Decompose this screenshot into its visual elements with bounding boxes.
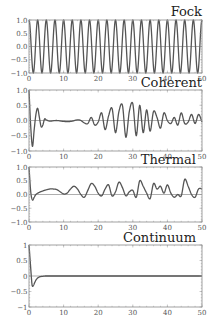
x-tick-label: 10: [59, 309, 68, 317]
x-tick-label: 20: [94, 75, 103, 83]
y-tick-label: −1.0: [11, 70, 28, 78]
y-tick-label: 0.0: [16, 191, 27, 199]
y-tick-label: 1.0: [16, 17, 27, 25]
panel-title: Continuum: [123, 230, 196, 245]
x-tick-label: 30: [128, 75, 137, 83]
panel-title: Fock: [171, 4, 202, 19]
y-tick-label: 0.5: [16, 257, 27, 265]
x-tick-label: 50: [198, 224, 207, 232]
y-tick-label: −0.5: [11, 205, 28, 213]
x-tick-label: 20: [94, 153, 103, 161]
x-tick-label: 30: [128, 309, 137, 317]
panel-title: Thermal: [141, 152, 196, 167]
x-tick-label: 10: [59, 224, 68, 232]
x-tick-label: 50: [198, 153, 207, 161]
panel-fock: Fock 010203040501.00.50.0−0.5−1.0: [11, 4, 207, 83]
series-line: [29, 167, 202, 200]
y-tick-label: −1: [17, 304, 27, 312]
panel-title: Coherent: [141, 75, 203, 90]
y-tick-label: −1.0: [11, 219, 28, 227]
x-tick-label: 10: [59, 153, 68, 161]
x-tick-label: 10: [59, 75, 68, 83]
y-tick-label: 1.0: [16, 164, 27, 172]
figure: Fock 010203040501.00.50.0−0.5−1.0 Cohere…: [0, 0, 223, 321]
y-tick-label: −0.5: [11, 56, 28, 64]
y-tick-label: 0.0: [16, 43, 27, 51]
series-line: [29, 245, 202, 286]
panel-coherent: Coherent 010203040501.00.50.0−0.5−1.0: [11, 75, 207, 161]
y-tick-label: 0.0: [16, 117, 27, 125]
y-tick-label: 0.5: [16, 102, 27, 110]
panel-thermal: Thermal 010203040501.00.50.0−0.5−1.0: [11, 152, 207, 232]
x-tick-label: 30: [128, 153, 137, 161]
y-tick-label: 1.0: [16, 87, 27, 95]
y-tick-label: −0.5: [11, 132, 28, 140]
y-tick-label: 0.5: [16, 30, 27, 38]
x-tick-label: 20: [94, 309, 103, 317]
y-tick-label: −1.0: [11, 148, 28, 156]
panel-continuum: Continuum 0102030405010.50−0.5−1: [11, 230, 207, 317]
series-line: [29, 90, 202, 146]
x-tick-label: 20: [94, 224, 103, 232]
x-tick-label: 40: [163, 309, 172, 317]
x-tick-label: 50: [198, 309, 207, 317]
y-tick-label: −0.5: [11, 288, 28, 296]
y-tick-label: 0.5: [16, 177, 27, 185]
y-tick-label: 1: [23, 242, 27, 250]
y-tick-label: 0: [23, 273, 27, 281]
